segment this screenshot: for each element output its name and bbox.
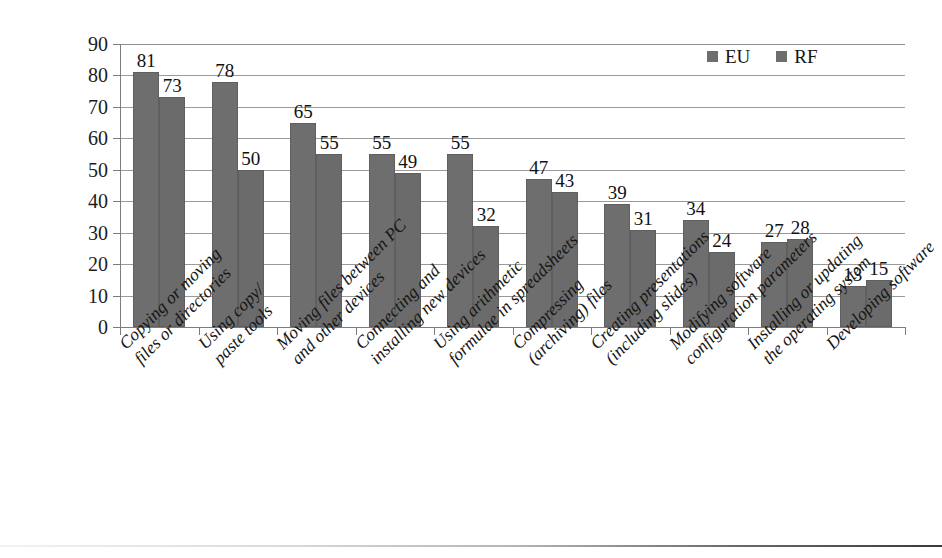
y-axis-label: 90 <box>0 34 108 54</box>
gridline <box>120 138 905 139</box>
y-axis-tick <box>113 138 121 139</box>
bar-value-label: 81 <box>137 51 156 70</box>
y-axis-tick <box>113 296 121 297</box>
y-axis-line <box>120 44 121 328</box>
gridline <box>120 75 905 76</box>
bar-chart: 0102030405060708090 81737850655555495532… <box>0 0 942 558</box>
bar-eu[interactable] <box>290 123 316 327</box>
y-axis-tick <box>113 44 121 45</box>
legend-label-rf: RF <box>794 47 817 66</box>
bar-value-label: 49 <box>398 152 417 171</box>
bar-value-label: 55 <box>320 133 339 152</box>
y-axis-tick <box>113 107 121 108</box>
y-axis-tick <box>113 75 121 76</box>
bar-value-label: 73 <box>163 76 182 95</box>
bar-value-label: 39 <box>608 183 627 202</box>
bar-value-label: 34 <box>686 199 705 218</box>
y-axis-label: 40 <box>0 191 108 211</box>
gridline <box>120 107 905 108</box>
gridline <box>120 44 905 45</box>
bar-value-label: 55 <box>372 133 391 152</box>
y-axis-label: 20 <box>0 254 108 274</box>
legend-swatch-icon <box>776 51 787 62</box>
bar-eu[interactable] <box>133 72 159 327</box>
page-edge-artifact <box>0 545 942 547</box>
y-axis-label: 70 <box>0 97 108 117</box>
y-axis-label: 0 <box>0 317 108 337</box>
legend-item-eu[interactable]: EU <box>707 47 750 66</box>
bar-value-label: 47 <box>529 158 548 177</box>
x-axis-tick <box>905 327 906 335</box>
bar-value-label: 32 <box>477 205 496 224</box>
bar-value-label: 55 <box>451 133 470 152</box>
legend-label-eu: EU <box>725 47 750 66</box>
bar-value-label: 43 <box>555 171 574 190</box>
y-axis-tick <box>113 233 121 234</box>
legend-item-rf[interactable]: RF <box>776 47 817 66</box>
bar-value-label: 50 <box>241 149 260 168</box>
y-axis-label: 60 <box>0 128 108 148</box>
y-axis-tick <box>113 170 121 171</box>
legend-swatch-icon <box>707 51 718 62</box>
bar-value-label: 78 <box>215 61 234 80</box>
y-axis-tick <box>113 264 121 265</box>
y-axis-label: 80 <box>0 65 108 85</box>
bar-value-label: 31 <box>634 209 653 228</box>
y-axis-label: 50 <box>0 160 108 180</box>
y-axis-label: 30 <box>0 223 108 243</box>
y-axis-label: 10 <box>0 286 108 306</box>
bar-value-label: 65 <box>294 102 313 121</box>
y-axis-tick <box>113 201 121 202</box>
legend: EU RF <box>707 47 818 66</box>
